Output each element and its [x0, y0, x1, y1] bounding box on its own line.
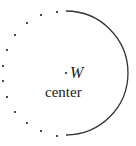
- arc-dot: [6, 96, 8, 98]
- arc-dot: [56, 11, 58, 13]
- arc-dot: [2, 80, 4, 82]
- center-label: center: [45, 84, 82, 100]
- arc-dot: [14, 34, 16, 36]
- arc-dot: [26, 122, 28, 124]
- arc-dot: [14, 111, 16, 113]
- arc-dot: [26, 22, 28, 24]
- circle-diagram: W center: [0, 0, 136, 146]
- center-point-dot: [65, 72, 67, 74]
- arc-dot: [40, 130, 42, 132]
- arc-dot: [2, 65, 4, 67]
- diagram-canvas: W center: [0, 0, 136, 146]
- dotted-arc: [2, 11, 58, 137]
- point-label-w: W: [70, 64, 85, 81]
- arc-dot: [56, 135, 58, 137]
- arc-dot: [6, 49, 8, 51]
- arc-dot: [40, 14, 42, 16]
